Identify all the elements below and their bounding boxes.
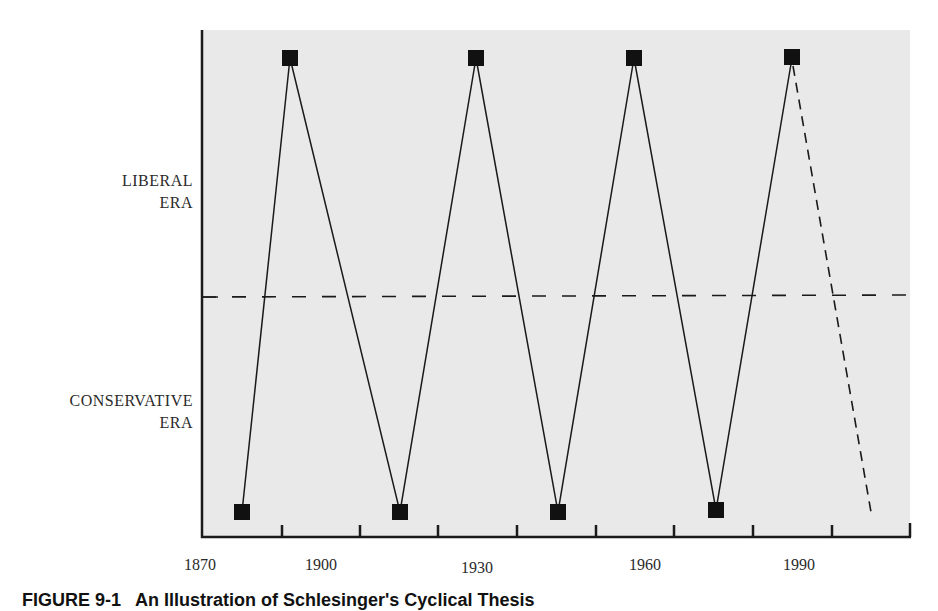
- y-label-conservative: CONSERVATIVE ERA: [10, 390, 193, 434]
- marker-conservative-3: [550, 504, 566, 520]
- figure-number: FIGURE 9-1: [22, 590, 121, 610]
- marker-conservative-2: [392, 504, 408, 520]
- figure-caption: FIGURE 9-1An Illustration of Schlesinger…: [22, 590, 534, 611]
- marker-liberal-2: [468, 50, 484, 66]
- marker-liberal-3: [626, 50, 642, 66]
- marker-conservative-1: [234, 504, 250, 520]
- plot-area: [202, 30, 910, 537]
- x-tick-label-1990: 1990: [783, 556, 815, 574]
- y-label-liberal-line1: LIBERAL: [60, 170, 193, 192]
- y-label-conservative-line1: CONSERVATIVE: [10, 390, 193, 412]
- y-label-liberal-line2: ERA: [60, 192, 193, 214]
- marker-liberal-4: [784, 49, 800, 65]
- x-tick-label-1960: 1960: [629, 556, 661, 574]
- x-tick-label-1870: 1870: [184, 556, 216, 574]
- figure-title: An Illustration of Schlesinger's Cyclica…: [135, 590, 534, 610]
- marker-liberal-1: [282, 50, 298, 66]
- x-tick-label-1930: 1930: [461, 559, 493, 577]
- x-tick-label-1900: 1900: [305, 556, 337, 574]
- y-label-conservative-line2: ERA: [10, 412, 193, 434]
- y-label-liberal: LIBERAL ERA: [60, 170, 193, 214]
- marker-conservative-4: [708, 502, 724, 518]
